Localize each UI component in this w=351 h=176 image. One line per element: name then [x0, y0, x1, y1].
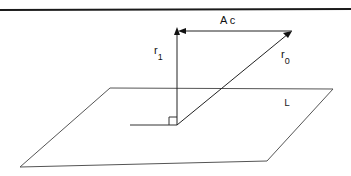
label-r1-sub: 1 — [158, 52, 163, 62]
top-rule — [0, 9, 351, 10]
vector-r0 — [177, 34, 288, 125]
label-plane-L: L — [284, 98, 290, 109]
vector-plane-diagram: A c r1 r0 L — [0, 0, 351, 176]
label-ac: A c — [220, 14, 236, 26]
label-r0-sub: 0 — [285, 56, 290, 66]
label-r0: r0 — [281, 48, 290, 66]
right-angle-marker — [169, 117, 177, 125]
label-r1: r1 — [154, 44, 163, 62]
diagram-canvas: A c r1 r0 L — [0, 0, 351, 176]
